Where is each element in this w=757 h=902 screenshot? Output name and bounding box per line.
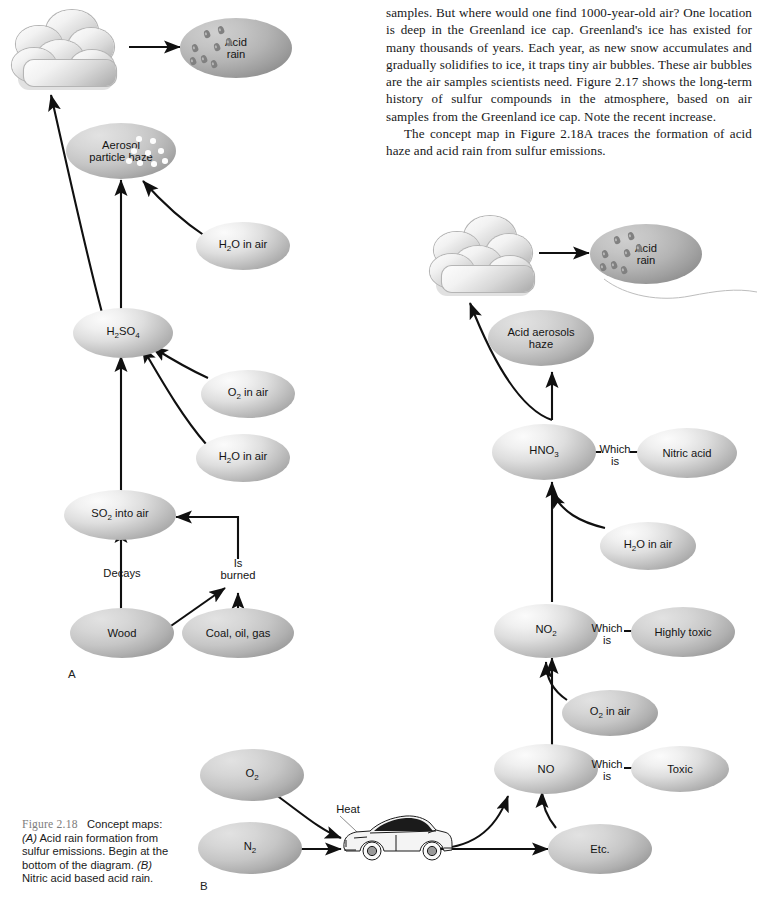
arrow-h2o-to-hno3-b <box>552 492 605 528</box>
cloud-icon <box>10 6 122 98</box>
label-which-is-no: Whichis <box>588 758 626 782</box>
arrow-o2-to-h2so4-a <box>152 347 208 378</box>
figure-caption: Figure 2.18 Concept maps: (A) Acid rain … <box>22 818 178 886</box>
node-nitric-acid-b: Nitric acid <box>637 428 737 478</box>
body-text-column: samples. But where would one find 1000-y… <box>386 4 752 160</box>
cloud-icon-b <box>428 212 540 304</box>
node-etc-b: Etc. <box>548 824 652 874</box>
arrow-h2o-lower-to-h2so4-a <box>142 347 206 444</box>
node-n2-b: N2 <box>198 822 302 874</box>
node-label-etc-b: Etc. <box>586 843 613 855</box>
label-which-is-no2: Whichis <box>588 622 626 646</box>
node-coal-oil-gas-a: Coal, oil, gas <box>182 608 294 658</box>
caption-text-1: Concept maps: <box>87 818 162 830</box>
caption-text-3: Nitric acid based acid rain. <box>22 872 153 884</box>
label-heat-b: Heat <box>326 803 370 815</box>
node-o2-in-air-a: O2 in air <box>201 370 295 418</box>
body-paragraph-2: The concept map in Figure 2.18A traces t… <box>386 125 752 160</box>
node-label-nitric-acid-b: Nitric acid <box>658 447 715 459</box>
panel-label-b: B <box>200 880 208 892</box>
heat-leader-line <box>340 816 371 845</box>
textbook-page: samples. But where would one find 1000-y… <box>0 0 757 902</box>
panel-label-a: A <box>68 668 76 680</box>
node-so2-into-air-a: SO2 into air <box>64 490 176 540</box>
node-label-acid-aerosols-haze-b: Acid aerosolshaze <box>503 326 578 351</box>
node-h2so4-a: H2SO4 <box>73 308 173 358</box>
node-label-coal-oil-gas-a: Coal, oil, gas <box>202 627 275 639</box>
node-no-b: NO <box>494 744 598 794</box>
node-acid-aerosols-haze-b: Acid aerosolshaze <box>488 310 594 366</box>
caption-part-a-label: (A) <box>22 832 37 844</box>
node-no2-b: NO2 <box>494 604 598 658</box>
node-label-toxic-b: Toxic <box>663 763 697 775</box>
node-highly-toxic-b: Highly toxic <box>631 607 735 657</box>
node-toxic-b: Toxic <box>631 746 729 792</box>
arrow-isburned-to-so2-a <box>176 517 238 559</box>
node-o2-b: O2 <box>200 749 304 801</box>
caption-figure-label: Figure 2.18 <box>22 818 78 831</box>
arrow-etc-to-no-b <box>542 792 556 828</box>
node-h2o-in-air-a-lower: H2O in air <box>196 434 290 482</box>
node-h2o-in-air-b: H2O in air <box>600 522 696 570</box>
node-wood-a: Wood <box>70 608 174 658</box>
label-which-is-hno3: Whichis <box>596 443 634 467</box>
node-h2o-in-air-a-upper: H2O in air <box>196 222 290 270</box>
node-label-wood-a: Wood <box>103 627 140 639</box>
label-decays-a: Decays <box>92 567 152 579</box>
node-o2-in-air-b: O2 in air <box>562 690 658 736</box>
node-hno3-b: HNO3 <box>492 424 596 480</box>
arrow-h2o-upper-to-haze-a <box>143 181 205 236</box>
node-label-no-b: NO <box>534 763 559 775</box>
arrow-car-to-no-b <box>430 796 508 849</box>
label-is-burned-a: Isburned <box>210 557 266 581</box>
body-paragraph-1: samples. But where would one find 1000-y… <box>386 4 752 125</box>
node-label-highly-toxic-b: Highly toxic <box>650 626 715 638</box>
caption-part-b-label: (B) <box>137 859 152 871</box>
arrow-o2air-to-no2-b <box>546 662 567 700</box>
